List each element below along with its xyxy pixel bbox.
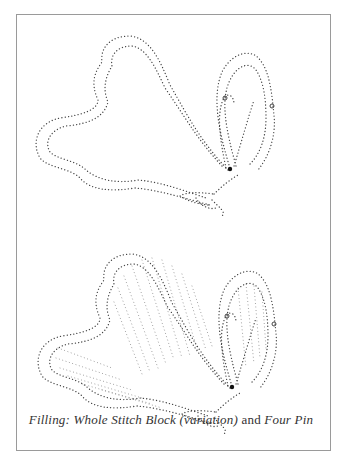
- caption-conjunction: and: [238, 412, 264, 427]
- butterfly-filled-bottom: [38, 254, 276, 434]
- figure-caption: Filling: Whole Stitch Block (variation) …: [0, 412, 342, 428]
- caption-second-filling: Four Pin: [264, 412, 313, 427]
- butterfly-outline-top: [36, 36, 274, 216]
- caption-filling-name: Filling: Whole Stitch Block (variation): [29, 412, 238, 427]
- butterfly-illustrations: [0, 0, 342, 463]
- whole-stitch-fill: [114, 258, 266, 374]
